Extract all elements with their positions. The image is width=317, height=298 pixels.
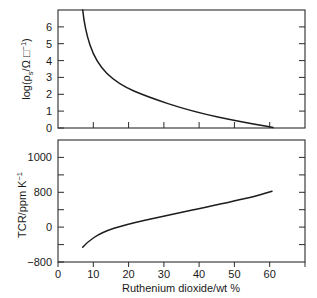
top-y-label-exponent: −1 [19,42,28,51]
top-panel-frame [58,10,305,128]
figure-container: 0 1 2 3 4 5 6 log(ρs/Ω □−1) [0,0,317,298]
svg-text:log(ρs/Ω □−1): log(ρs/Ω □−1) [19,38,35,100]
top-y-tick-label-0: 0 [46,122,52,134]
bottom-panel-y-tick-labels: 1000 800 0 −800 [27,151,52,268]
top-panel-y-ticks [58,27,64,128]
top-panel: 0 1 2 3 4 5 6 log(ρs/Ω □−1) [19,10,305,134]
bottom-y-label-exponent: −1 [15,172,24,181]
top-panel-y-ticks-right [299,27,305,111]
top-panel-y-tick-labels: 0 1 2 3 4 5 6 [46,21,52,134]
svg-text:TCR/ppm K−1: TCR/ppm K−1 [15,172,28,238]
bottom-y-label-prefix: TCR/ppm K [16,180,28,238]
bottom-panel-y-axis-label: TCR/ppm K−1 [15,172,28,238]
top-y-tick-label-3: 3 [46,71,52,83]
x-tick-label-0: 0 [55,268,61,280]
bottom-panel-frame [58,140,305,262]
bottom-y-tick-label-1000: 1000 [28,151,52,163]
x-tick-label-10: 10 [87,268,99,280]
bottom-y-tick-label-minus-800: −800 [27,256,52,268]
bottom-y-tick-label-0: 0 [46,221,52,233]
bottom-panel-x-ticks [58,262,305,267]
top-y-label-unit: /Ω □ [20,50,32,71]
bottom-panel: 1000 800 0 −800 0 10 20 30 40 50 60 TCR/… [15,140,305,294]
x-tick-label-40: 40 [193,268,205,280]
top-y-tick-label-5: 5 [46,38,52,50]
x-tick-label-60: 60 [264,268,276,280]
x-tick-label-20: 20 [122,268,134,280]
top-y-tick-label-2: 2 [46,88,52,100]
bottom-panel-y-ticks [58,157,64,262]
x-axis-label: Ruthenium dioxide/wt % [122,282,240,294]
x-tick-label-50: 50 [228,268,240,280]
top-y-tick-label-6: 6 [46,21,52,33]
top-y-tick-label-1: 1 [46,105,52,117]
x-tick-label-30: 30 [158,268,170,280]
top-y-label-suffix: ) [20,38,32,42]
tcr-curve [83,191,272,247]
resistivity-tcr-figure: 0 1 2 3 4 5 6 log(ρs/Ω □−1) [0,0,317,298]
resistivity-curve [83,10,273,128]
top-panel-x-ticks [93,122,269,128]
bottom-panel-y-ticks-right [299,157,305,244]
bottom-panel-x-tick-labels: 0 10 20 30 40 50 60 [55,268,276,280]
top-y-tick-label-4: 4 [46,55,52,67]
top-y-label-prefix: log( [20,81,32,100]
top-panel-y-axis-label: log(ρs/Ω □−1) [19,38,35,100]
bottom-y-tick-label-800: 800 [34,186,52,198]
